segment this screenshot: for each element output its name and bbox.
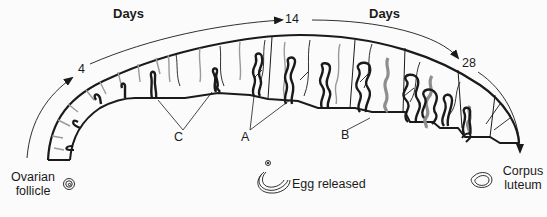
arrow-to-day-28 — [312, 20, 458, 58]
day-marker-14: 14 — [285, 12, 299, 26]
gland-label-a: A — [241, 130, 249, 144]
days-label-right: Days — [369, 7, 400, 21]
ovarian-follicle-label: Ovarian follicle — [10, 170, 56, 198]
corpus-luteum-icon — [471, 173, 492, 188]
arrow-to-corpus-luteum — [478, 72, 520, 152]
ovarian-follicle-line1: Ovarian — [10, 170, 56, 184]
ovarian-follicle-icon — [64, 179, 75, 190]
dark-vessels — [176, 40, 510, 130]
egg-released-label: Egg released — [292, 177, 366, 191]
day-marker-28: 28 — [462, 56, 476, 70]
arrow-to-day-14 — [90, 20, 282, 64]
endometrial-cycle-diagram: Days Days 4 14 28 C A B Ovarian follicle… — [0, 0, 547, 217]
corpus-luteum-line2: luteum — [500, 178, 546, 192]
pointer-a-1 — [250, 96, 254, 130]
egg-released-icon — [258, 161, 290, 194]
pointer-c-1 — [158, 100, 183, 130]
days-label-left: Days — [113, 7, 144, 21]
endometrium-band — [48, 35, 519, 160]
corpus-luteum-line1: Corpus — [500, 164, 546, 178]
gland-label-c: C — [174, 130, 183, 144]
corpus-luteum-label: Corpus luteum — [500, 164, 546, 192]
timeline-arrows — [27, 20, 520, 158]
day-marker-4: 4 — [78, 62, 85, 76]
pointer-b — [347, 118, 370, 130]
ovarian-follicle-line2: follicle — [10, 184, 56, 198]
pointer-a-2 — [250, 100, 290, 130]
diagram-drawing — [0, 0, 547, 217]
gland-label-b: B — [341, 128, 349, 142]
